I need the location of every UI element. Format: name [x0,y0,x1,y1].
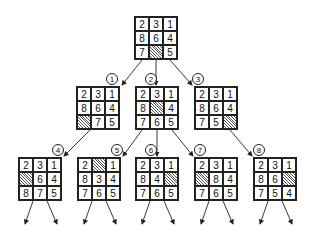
tile: 1 [164,158,178,172]
tile: 8 [195,101,209,115]
node-order-label: 5 [111,144,123,156]
tile: 7 [91,115,105,129]
tile: 8 [136,101,150,115]
tile: 6 [149,31,163,45]
puzzle-board-6: 23184765 [135,157,179,201]
tile: 4 [163,31,177,45]
node-order-label: 2 [145,73,157,85]
tile: 2 [136,158,150,172]
tile: 2 [78,158,92,172]
puzzle-board-1: 23186475 [76,86,120,130]
tile: 3 [209,158,223,172]
tile: 5 [164,115,178,129]
tile: 6 [268,172,282,186]
node-order-label: 3 [192,73,204,85]
tile: 1 [223,158,237,172]
tile: 7 [136,115,150,129]
tile: 2 [19,158,33,172]
tile: 4 [150,172,164,186]
tile: 3 [209,87,223,101]
tile: 7 [33,186,47,200]
puzzle-board-8: 23186754 [253,157,297,201]
tile: 5 [223,186,237,200]
tile: 2 [195,158,209,172]
tile: 5 [164,186,178,200]
node-order-label: 8 [253,144,265,156]
tile: 1 [223,87,237,101]
tile: 2 [77,87,91,101]
tile: 1 [163,17,177,31]
tile: 5 [268,186,282,200]
puzzle-board-2: 23184765 [135,86,179,130]
tile: 3 [33,158,47,172]
tile: 2 [135,17,149,31]
blank-tile [223,115,237,129]
tile: 5 [163,45,177,59]
tile: 7 [136,186,150,200]
tile: 2 [195,87,209,101]
blank-tile [92,158,106,172]
tile: 5 [209,115,223,129]
tile: 7 [78,186,92,200]
tile: 4 [105,101,119,115]
puzzle-board-7: 23184765 [194,157,238,201]
tile: 8 [254,172,268,186]
blank-tile [19,172,33,186]
tile: 4 [282,186,296,200]
tile: 8 [77,101,91,115]
tile: 6 [33,172,47,186]
tile: 4 [164,101,178,115]
tile: 8 [136,172,150,186]
puzzle-board-3: 23186475 [194,86,238,130]
blank-tile [77,115,91,129]
puzzle-board-4: 23164875 [18,157,62,201]
tile: 4 [223,172,237,186]
tile: 4 [106,172,120,186]
node-order-label: 4 [52,144,64,156]
tile: 5 [106,186,120,200]
tile: 4 [47,172,61,186]
tile: 7 [195,115,209,129]
tile: 6 [150,186,164,200]
tile: 4 [223,101,237,115]
tile: 1 [47,158,61,172]
node-order-label: 7 [194,144,206,156]
tile: 6 [150,115,164,129]
tile: 2 [136,87,150,101]
tile: 6 [92,186,106,200]
blank-tile [164,172,178,186]
tile: 7 [195,186,209,200]
tile: 1 [105,87,119,101]
tile: 7 [135,45,149,59]
root-board: 23186475 [134,16,178,60]
tile: 5 [105,115,119,129]
blank-tile [195,172,209,186]
tile: 7 [254,186,268,200]
tile: 1 [282,158,296,172]
tile: 6 [209,186,223,200]
tile: 6 [91,101,105,115]
tile: 8 [209,172,223,186]
tile: 1 [164,87,178,101]
tile: 2 [254,158,268,172]
blank-tile [149,45,163,59]
node-order-label: 1 [106,73,118,85]
tile: 1 [106,158,120,172]
tile: 6 [209,101,223,115]
tile: 5 [47,186,61,200]
node-order-label: 6 [145,144,157,156]
tile: 3 [268,158,282,172]
tile: 3 [92,172,106,186]
tile: 8 [78,172,92,186]
tile: 3 [91,87,105,101]
tile: 3 [150,87,164,101]
tile: 8 [19,186,33,200]
blank-tile [150,101,164,115]
tile: 3 [150,158,164,172]
puzzle-board-5: 21834765 [77,157,121,201]
tile: 8 [135,31,149,45]
blank-tile [282,172,296,186]
tile: 3 [149,17,163,31]
